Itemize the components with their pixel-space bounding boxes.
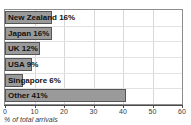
bar-value-label: Japan 16% [8, 27, 49, 40]
bar-row: USA 9% [5, 57, 182, 73]
bar-chart: New Zealand 16%Japan 16%UK 12%USA 9%Sing… [0, 0, 191, 125]
bar-value-label: UK 12% [8, 42, 38, 55]
bar-row: Japan 16% [5, 26, 182, 42]
x-axis-tick-label: 20 [60, 108, 68, 115]
x-axis-tick-label: 50 [149, 108, 157, 115]
bar-series: New Zealand 16%Japan 16%UK 12%USA 9%Sing… [5, 10, 182, 104]
x-axis-tick-label: 10 [31, 108, 39, 115]
bar-value-label: USA 9% [8, 58, 38, 71]
x-axis-tick-label: 40 [119, 108, 127, 115]
bar-row: UK 12% [5, 41, 182, 57]
x-axis-title: % of total arrivals [4, 116, 58, 123]
chart-title-clipped [4, 0, 124, 4]
plot-frame: New Zealand 16%Japan 16%UK 12%USA 9%Sing… [4, 9, 183, 105]
x-axis-tick-label: 0 [3, 108, 7, 115]
bar-value-label: Singapore 6% [8, 74, 61, 87]
x-axis-tick-label: 60 [178, 108, 186, 115]
bar-value-label: New Zealand 16% [8, 11, 75, 24]
bar-row: Other 41% [5, 88, 182, 104]
bar-row: Singapore 6% [5, 73, 182, 89]
bar-value-label: Other 41% [8, 89, 48, 102]
bar-row: New Zealand 16% [5, 10, 182, 26]
x-axis-tick-label: 30 [90, 108, 98, 115]
